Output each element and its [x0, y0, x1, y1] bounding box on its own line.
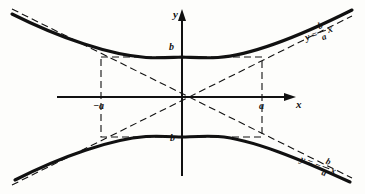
tick-label-minus-a: −a [93, 101, 104, 111]
tick-label-minus-b: −b [164, 133, 175, 143]
x-axis-arrowhead [284, 93, 296, 101]
hyperbola-figure: y x b −b a −a y = b a x y = − b a x [0, 0, 365, 194]
x-axis-label: x [296, 99, 302, 110]
y-axis-label: y [173, 9, 178, 20]
y-axis-arrowhead [178, 9, 186, 21]
asymptote-label-positive-lhs: y = [303, 29, 318, 43]
tick-label-b: b [169, 42, 174, 52]
asymptote-label-negative-denominator: a [319, 168, 328, 179]
tick-label-a: a [259, 101, 264, 111]
asymptote-label-negative-lhs: y = − [299, 154, 322, 171]
